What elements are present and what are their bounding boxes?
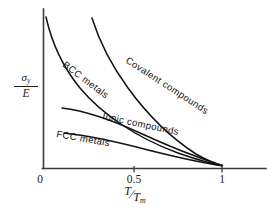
curve-bcc-metals: [46, 17, 222, 166]
curve-label-covalent-compounds: Covalent compounds: [124, 54, 211, 116]
x-axis-label-denominator: T: [133, 190, 140, 204]
y-axis-label-numerator: σy: [10, 72, 42, 86]
x-axis-label-numerator: T: [124, 184, 131, 198]
x-tick-label-0: 0: [37, 173, 43, 185]
x-axis-label-denominator-sub: m: [140, 196, 146, 205]
x-axis-label: T⁄Tm: [104, 186, 166, 202]
x-tick-label-1: 1: [219, 173, 225, 185]
curve-label-fcc-metals: FCC metals: [56, 128, 111, 148]
y-axis-label-denominator: E: [10, 88, 42, 100]
y-axis-label: σy E: [10, 72, 42, 99]
curve-covalent-compounds: [92, 18, 222, 166]
plot-area: 0 0.5 1 Covalent compounds BCC metals Io…: [0, 0, 276, 212]
figure-container: 0 0.5 1 Covalent compounds BCC metals Io…: [0, 0, 276, 212]
